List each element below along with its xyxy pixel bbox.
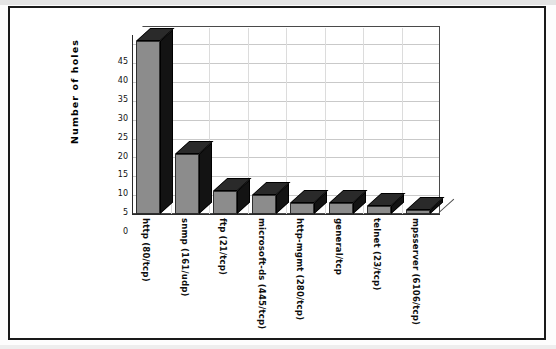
x-axis-tick-labels: http (80/tcp)snmp (161/udp)ftp (21/tcp)m… (132, 218, 452, 348)
chart-frame: Number of holes 051015202530354045 http … (8, 6, 546, 340)
bar (329, 203, 353, 214)
y-tick-label: 30 (102, 115, 128, 123)
x-tick-label: mpsserver (6106/tcp) (411, 218, 421, 325)
x-tick-label: ftp (21/tcp) (218, 218, 228, 275)
x-axis-line (132, 214, 440, 215)
bar-front-face (213, 191, 237, 214)
bar-side-face (160, 29, 173, 214)
y-tick-label: 35 (102, 96, 128, 104)
bar (252, 195, 276, 214)
plot-area (132, 26, 440, 214)
bar-front-face (136, 41, 160, 214)
bar (213, 191, 237, 214)
bar-front-face (252, 195, 276, 214)
y-axis-title: Number of holes (69, 22, 80, 162)
bar-front-face (406, 210, 430, 214)
bar (175, 154, 199, 214)
y-tick-label: 0 (102, 228, 128, 236)
y-tick-label: 40 (102, 77, 128, 85)
bar (290, 203, 314, 214)
bar-front-face (290, 203, 314, 214)
y-tick-label: 25 (102, 134, 128, 142)
y-tick-label: 5 (102, 209, 128, 217)
bar-side-face (199, 142, 212, 214)
y-tick-label: 15 (102, 171, 128, 179)
scanned-page: Number of holes 051015202530354045 http … (0, 0, 556, 349)
bar (136, 41, 160, 214)
bar-front-face (367, 206, 391, 214)
bar-front-face (175, 154, 199, 214)
x-tick-label: http (80/tcp) (141, 218, 151, 282)
y-tick-label: 20 (102, 153, 128, 161)
bar-front-face (329, 203, 353, 214)
x-tick-label: microsoft-ds (445/tcp) (257, 218, 267, 329)
x-tick-label: telnet (23/tcp) (372, 218, 382, 290)
x-tick-label: general/tcp (334, 218, 344, 275)
bar (406, 210, 430, 214)
x-tick-label: http-mgmt (280/tcp) (295, 218, 305, 320)
y-tick-label: 45 (102, 58, 128, 66)
y-axis-tick-labels: 051015202530354045 (96, 26, 128, 226)
y-tick-label: 10 (102, 190, 128, 198)
bar (367, 206, 391, 214)
x-tick-label: snmp (161/udp) (180, 218, 190, 297)
bar-series (132, 26, 440, 214)
